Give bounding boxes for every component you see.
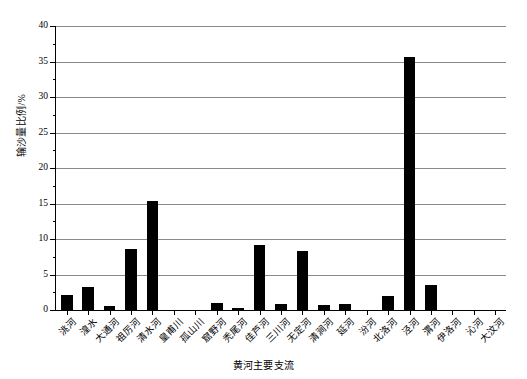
bar bbox=[232, 308, 244, 310]
x-tick bbox=[238, 310, 239, 315]
y-tick-label: 20 bbox=[39, 163, 49, 173]
y-tick-label: 25 bbox=[39, 128, 49, 138]
y-tick-major bbox=[50, 239, 56, 240]
bar bbox=[318, 305, 330, 310]
x-tick bbox=[195, 310, 196, 315]
gridline bbox=[56, 62, 506, 63]
x-tick bbox=[110, 310, 111, 315]
x-category-label: 延河 bbox=[336, 317, 357, 338]
x-tick bbox=[324, 310, 325, 315]
bar bbox=[425, 285, 437, 310]
gridline bbox=[56, 239, 506, 240]
y-axis-title: 输沙量比例/% bbox=[13, 56, 28, 196]
x-tick bbox=[217, 310, 218, 315]
bar bbox=[254, 245, 266, 310]
bar bbox=[125, 249, 137, 310]
x-axis-title: 黄河主要支流 bbox=[0, 357, 527, 372]
x-tick bbox=[152, 310, 153, 315]
x-tick bbox=[88, 310, 89, 315]
y-tick-major bbox=[50, 204, 56, 205]
bar bbox=[404, 57, 416, 310]
bar bbox=[147, 201, 159, 310]
y-tick-major bbox=[50, 133, 56, 134]
bar-chart: 输沙量比例/% 0510152025303540 洮河湟水大通河祖厉河清水河皇甫… bbox=[0, 0, 527, 379]
x-tick bbox=[260, 310, 261, 315]
gridline bbox=[56, 97, 506, 98]
y-tick-label: 40 bbox=[39, 21, 49, 31]
y-tick-major bbox=[50, 310, 56, 311]
bar bbox=[211, 303, 223, 310]
bar bbox=[275, 304, 287, 310]
y-tick-minor bbox=[53, 44, 57, 45]
x-tick bbox=[345, 310, 346, 315]
x-tick bbox=[452, 310, 453, 315]
gridline bbox=[56, 275, 506, 276]
x-category-label: 泾河 bbox=[400, 317, 421, 338]
bar bbox=[339, 304, 351, 310]
bar bbox=[82, 287, 94, 310]
y-tick-major bbox=[50, 62, 56, 63]
x-tick bbox=[410, 310, 411, 315]
x-category-label: 洮河 bbox=[58, 317, 79, 338]
bar bbox=[61, 295, 73, 310]
x-tick bbox=[302, 310, 303, 315]
y-tick-minor bbox=[53, 186, 57, 187]
x-tick bbox=[474, 310, 475, 315]
y-tick-minor bbox=[53, 115, 57, 116]
y-tick-minor bbox=[53, 150, 57, 151]
y-tick-major bbox=[50, 26, 56, 27]
gridline bbox=[56, 168, 506, 169]
x-tick bbox=[281, 310, 282, 315]
x-tick bbox=[174, 310, 175, 315]
y-tick-minor bbox=[53, 292, 57, 293]
y-tick-minor bbox=[53, 221, 57, 222]
plot-area: 0510152025303540 洮河湟水大通河祖厉河清水河皇甫川孤山川窟野河秃… bbox=[55, 26, 506, 311]
gridline bbox=[56, 133, 506, 134]
y-tick-major bbox=[50, 275, 56, 276]
bar bbox=[297, 251, 309, 310]
x-tick bbox=[431, 310, 432, 315]
y-tick-minor bbox=[53, 79, 57, 80]
y-tick-minor bbox=[53, 257, 57, 258]
y-tick-label: 10 bbox=[39, 234, 49, 244]
y-tick-label: 35 bbox=[39, 57, 49, 67]
gridline bbox=[56, 26, 506, 27]
x-tick bbox=[388, 310, 389, 315]
bar bbox=[104, 306, 116, 310]
x-tick bbox=[131, 310, 132, 315]
y-tick-major bbox=[50, 97, 56, 98]
gridline bbox=[56, 204, 506, 205]
y-tick-label: 15 bbox=[39, 199, 49, 209]
x-tick bbox=[367, 310, 368, 315]
x-tick bbox=[67, 310, 68, 315]
y-tick-major bbox=[50, 168, 56, 169]
y-tick-label: 5 bbox=[43, 270, 48, 280]
bar bbox=[382, 296, 394, 310]
y-tick-label: 0 bbox=[43, 305, 48, 315]
y-tick-label: 30 bbox=[39, 92, 49, 102]
x-tick bbox=[495, 310, 496, 315]
